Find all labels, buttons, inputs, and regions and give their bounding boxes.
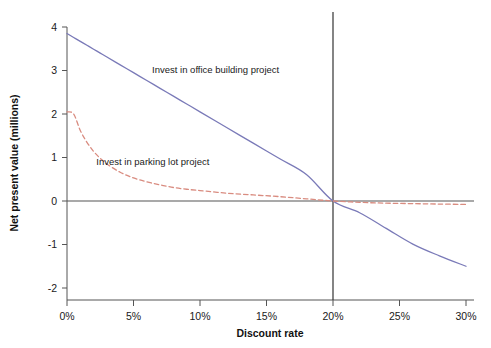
npv-discount-rate-chart: -2-101234 0%5%10%15%20%25%30% Invest in …	[0, 0, 491, 348]
y-axis-tick-label: 4	[51, 21, 57, 33]
x-axis-tick-label: 15%	[256, 310, 277, 322]
x-axis-tick-label: 30%	[455, 310, 476, 322]
x-axis-tick-label: 20%	[322, 310, 343, 322]
x-axis-tick-label: 25%	[389, 310, 410, 322]
y-axis-tick-label: -2	[48, 282, 57, 294]
x-axis-tick-label: 10%	[189, 310, 210, 322]
chart-canvas: -2-101234 0%5%10%15%20%25%30% Invest in …	[0, 0, 491, 348]
x-axis-title: Discount rate	[236, 327, 303, 339]
y-axis-tick-label: 0	[51, 195, 57, 207]
chart-background	[0, 0, 491, 348]
y-axis-tick-label: 1	[51, 151, 57, 163]
series-annotation-parking-lot: Invest in parking lot project	[96, 156, 209, 167]
y-axis-tick-label: -1	[48, 238, 57, 250]
series-annotation-office-building: Invest in office building project	[152, 64, 279, 75]
x-axis-tick-label: 0%	[59, 310, 74, 322]
y-axis-tick-label: 2	[51, 108, 57, 120]
x-axis-tick-label: 5%	[126, 310, 141, 322]
y-axis-tick-label: 3	[51, 64, 57, 76]
y-axis-title: Net present value (millions)	[8, 94, 20, 231]
